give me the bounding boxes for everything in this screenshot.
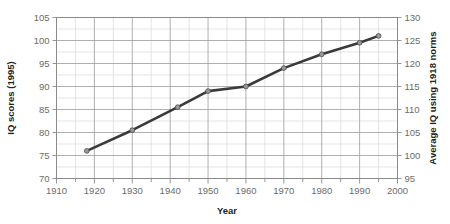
data-point xyxy=(175,105,180,110)
data-point xyxy=(281,66,286,71)
chart-container: 1910192019301940195019601970198019902000… xyxy=(0,0,450,224)
y2-tick-label: 120 xyxy=(405,58,421,69)
x-tick-label: 1910 xyxy=(46,185,67,196)
data-point xyxy=(206,89,211,94)
x-tick-label: 1930 xyxy=(122,185,143,196)
y-axis-title: IQ scores (1995) xyxy=(5,61,16,134)
x-tick-label: 1970 xyxy=(273,185,294,196)
x-axis-title: Year xyxy=(217,205,237,216)
y-tick-label: 85 xyxy=(39,104,50,115)
y2-tick-label: 125 xyxy=(405,35,421,46)
y2-axis-title: Average IQ using 1918 norms xyxy=(427,31,438,164)
y2-tick-label: 115 xyxy=(405,81,420,92)
data-point xyxy=(376,34,381,39)
y-tick-label: 95 xyxy=(39,58,50,69)
data-point xyxy=(319,52,324,57)
y-tick-label: 70 xyxy=(39,173,50,184)
y2-tick-label: 100 xyxy=(405,150,421,161)
x-tick-label: 1920 xyxy=(84,185,105,196)
x-tick-label: 1960 xyxy=(235,185,256,196)
y2-tick-label: 110 xyxy=(405,104,420,115)
y-tick-label: 105 xyxy=(34,12,50,23)
y2-tick-label: 130 xyxy=(405,12,421,23)
x-tick-label: 1950 xyxy=(197,185,218,196)
y-tick-label: 80 xyxy=(39,127,50,138)
x-tick-label: 1990 xyxy=(349,185,370,196)
y-tick-label: 75 xyxy=(39,150,50,161)
x-tick-label: 2000 xyxy=(387,185,408,196)
chart-background xyxy=(0,0,450,224)
data-point xyxy=(244,84,249,89)
y-tick-label: 90 xyxy=(39,81,50,92)
y2-tick-label: 105 xyxy=(405,127,421,138)
data-point xyxy=(84,149,89,154)
iq-trend-line-chart: 1910192019301940195019601970198019902000… xyxy=(0,0,450,224)
y-tick-label: 100 xyxy=(34,35,50,46)
y2-tick-label: 95 xyxy=(405,173,416,184)
data-point xyxy=(357,40,362,45)
x-tick-label: 1980 xyxy=(311,185,332,196)
x-tick-label: 1940 xyxy=(160,185,181,196)
data-point xyxy=(130,128,135,133)
